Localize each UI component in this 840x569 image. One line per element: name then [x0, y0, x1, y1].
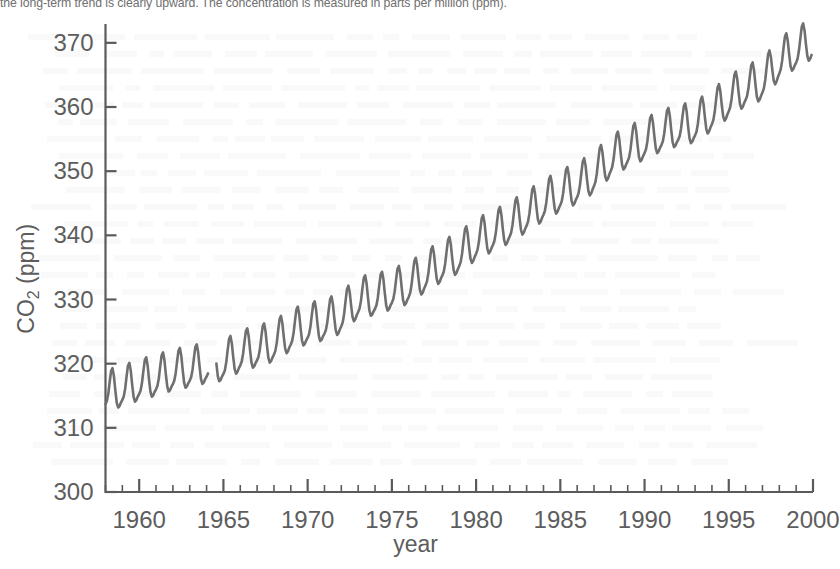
y-tick-label: 300: [53, 478, 93, 506]
x-tick-label: 2000: [786, 506, 839, 534]
x-tick-label: 1960: [112, 506, 165, 534]
y-tick-label: 350: [53, 157, 93, 185]
axes: [106, 24, 814, 492]
x-tick-label: 1995: [702, 506, 755, 534]
y-tick-label: 310: [53, 414, 93, 442]
y-tick-label: 320: [53, 350, 93, 378]
x-tick-label: 1980: [449, 506, 502, 534]
x-tick-label: 1985: [534, 506, 587, 534]
x-tick-label: 1975: [365, 506, 418, 534]
y-tick-label: 370: [53, 29, 93, 57]
y-tick-label: 340: [53, 221, 93, 249]
y-axis-title-suffix: (ppm): [13, 224, 39, 290]
y-axis-title-subscript: 2: [25, 290, 42, 299]
co2-data-line: [106, 23, 812, 407]
figure-caption: the long-term trend is clearly upward. T…: [0, 0, 820, 11]
x-tick-label: 1990: [618, 506, 671, 534]
y-axis-title: CO2 (ppm): [13, 199, 42, 359]
y-tick-label: 330: [53, 286, 93, 314]
x-tick-label: 1965: [197, 506, 250, 534]
y-axis-title-prefix: CO: [13, 299, 39, 334]
y-tick-label: 360: [53, 93, 93, 121]
x-axis-title: year: [0, 531, 831, 558]
x-tick-label: 1970: [281, 506, 334, 534]
